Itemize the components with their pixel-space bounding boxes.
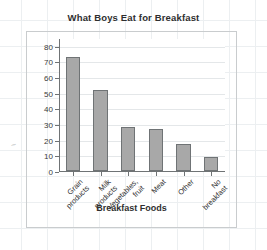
bar [176,144,190,171]
plot-area: 01020304050607080 [59,39,225,172]
gridline [59,141,225,142]
bar-chart-figure: What Boys Eat for Breakfast Number of Bo… [0,0,267,250]
y-tick-label: 0 [49,168,53,177]
bar [204,157,218,171]
y-tick-label: 20 [44,136,53,145]
bar [93,90,107,171]
gridline [59,47,225,48]
bar [66,57,80,171]
y-tick-label: 60 [44,74,53,83]
y-tick-label: 70 [44,58,53,67]
plot-background [59,39,225,172]
x-tick-mark [73,172,74,176]
x-tick-mark [184,172,185,176]
x-tick-mark [101,172,102,176]
x-tick-mark [128,172,129,176]
y-tick-label: 40 [44,105,53,114]
gridline [59,62,225,63]
y-tick-label: 30 [44,121,53,130]
gridline [59,125,225,126]
y-axis-line [59,39,60,172]
gridline [59,109,225,110]
x-axis-line [59,171,225,172]
chart-title: What Boys Eat for Breakfast [0,12,267,23]
bar [149,129,163,171]
x-tick-mark [211,172,212,176]
gridline [59,78,225,79]
y-tick-label: 50 [44,89,53,98]
y-tick-label: 80 [44,42,53,51]
gridline [59,156,225,157]
gridline [59,94,225,95]
bar [121,127,135,171]
y-tick-label: 10 [44,152,53,161]
y-tick-mark [55,172,59,173]
x-tick-mark [156,172,157,176]
plot-frame: Number of Boys 01020304050607080 Grain p… [26,31,237,228]
x-axis-title: Breakfast Foods [26,203,237,213]
